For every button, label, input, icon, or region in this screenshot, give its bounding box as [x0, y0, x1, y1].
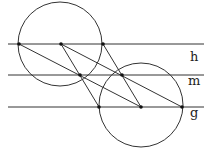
circle-lower — [99, 63, 183, 147]
point — [120, 73, 124, 77]
label-h: h — [190, 50, 198, 63]
point — [17, 42, 21, 46]
geometry-diagram: h m g — [0, 0, 209, 152]
point — [101, 42, 105, 46]
label-g: g — [190, 106, 198, 119]
point — [97, 105, 101, 109]
point — [59, 42, 63, 46]
point — [78, 73, 82, 77]
point — [180, 105, 184, 109]
point — [139, 105, 143, 109]
label-m: m — [188, 74, 200, 87]
diagram-canvas — [0, 0, 209, 152]
